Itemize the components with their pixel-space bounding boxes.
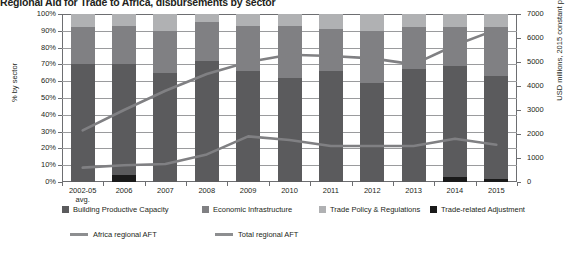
y-tick-label-left: 100% (18, 10, 56, 18)
y-tick-label-left: 10% (18, 161, 56, 169)
line-series (83, 30, 497, 131)
legend-item[interactable]: Trade Policy & Regulations (319, 205, 420, 214)
legend-label: Economic Infrastructure (213, 205, 292, 214)
y-tick-label-left: 90% (18, 27, 56, 35)
y-tick-label-left: 70% (18, 60, 56, 68)
legend-label: Trade Policy & Regulations (330, 205, 420, 214)
y-tick-label-right: 0 (527, 178, 567, 186)
y-tick-mark-right (517, 62, 521, 63)
y-tick-mark-right (517, 110, 521, 111)
y-tick-label-right: 3000 (527, 106, 567, 114)
y-tick-mark-right (517, 134, 521, 135)
legend-line-icon (70, 233, 88, 236)
legend-swatch-icon (62, 206, 69, 213)
legend-item[interactable]: Trade-related Adjustment (430, 205, 525, 214)
legend-item[interactable]: Africa regional AFT (70, 230, 157, 239)
y-tick-mark-right (517, 14, 521, 15)
y-tick-label-right: 1000 (527, 154, 567, 162)
y-tick-label-right: 7000 (527, 10, 567, 18)
y-tick-label-left: 80% (18, 44, 56, 52)
chart-container: Regional Aid for Trade to Africa, disbur… (0, 0, 573, 253)
legend-label: Total regional AFT (238, 230, 298, 239)
y-tick-label-right: 5000 (527, 58, 567, 66)
legend-item[interactable]: Total regional AFT (215, 230, 298, 239)
legend-swatch-icon (202, 206, 209, 213)
legend-swatch-icon (319, 206, 326, 213)
y-tick-mark-right (517, 38, 521, 39)
x-tick-label: 2015 (466, 186, 526, 195)
y-tick-mark-right (517, 86, 521, 87)
line-series (83, 136, 497, 167)
x-tick-label-sub: avg. (53, 195, 113, 204)
y-tick-label-left: 50% (18, 94, 56, 102)
legend-swatch-icon (430, 206, 437, 213)
y-tick-label-left: 0% (18, 178, 56, 186)
y-tick-label-right: 6000 (527, 34, 567, 42)
y-tick-label-left: 40% (18, 111, 56, 119)
legend-label: Africa regional AFT (93, 230, 157, 239)
y-tick-label-left: 20% (18, 144, 56, 152)
chart-title: Regional Aid for Trade to Africa, disbur… (0, 0, 275, 8)
y-tick-label-left: 30% (18, 128, 56, 136)
y-tick-mark-right (517, 158, 521, 159)
y-tick-label-right: 2000 (527, 130, 567, 138)
line-series-layer (62, 14, 517, 182)
legend-label: Building Productive Capacity (73, 205, 168, 214)
legend-item[interactable]: Building Productive Capacity (62, 205, 168, 214)
plot-area: 0%10%20%30%40%50%60%70%80%90%100% 010002… (62, 14, 517, 182)
x-label-group: 2015 (466, 186, 526, 195)
legend-line-icon (215, 233, 233, 236)
legend-label: Trade-related Adjustment (441, 205, 525, 214)
y-tick-label-right: 4000 (527, 82, 567, 90)
y-tick-label-left: 60% (18, 77, 56, 85)
legend-item[interactable]: Economic Infrastructure (202, 205, 292, 214)
